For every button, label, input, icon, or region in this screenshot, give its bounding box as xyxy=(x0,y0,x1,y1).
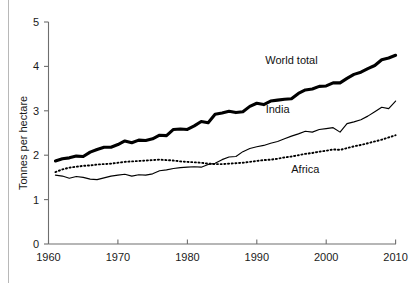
y-tick-label-3: 3 xyxy=(33,105,39,117)
y-tick-label-4: 4 xyxy=(33,60,39,72)
line-chart: 0 1 2 3 4 5 1960 1970 1980 1990 2000 201… xyxy=(0,0,418,283)
x-tick-label-2010: 2010 xyxy=(383,251,407,263)
x-tick-label-1990: 1990 xyxy=(245,251,269,263)
x-tick-label-2000: 2000 xyxy=(314,251,338,263)
y-tick-label-2: 2 xyxy=(33,149,39,161)
x-tick-label-1970: 1970 xyxy=(106,251,130,263)
series-line-world-total xyxy=(55,55,395,161)
x-tick-label-1960: 1960 xyxy=(36,251,60,263)
series-label-india: India xyxy=(266,103,291,115)
y-tick-marks xyxy=(44,22,49,244)
y-axis-title: Tonnes per hectare xyxy=(17,96,29,190)
y-tick-label-5: 5 xyxy=(33,16,39,28)
series-line-africa xyxy=(55,135,395,172)
series-label-africa: Africa xyxy=(291,163,320,175)
x-tick-marks xyxy=(49,240,396,245)
chart-figure: 0 1 2 3 4 5 1960 1970 1980 1990 2000 201… xyxy=(0,0,418,283)
series-label-world-total: World total xyxy=(265,54,317,66)
x-tick-label-1980: 1980 xyxy=(175,251,199,263)
y-tick-label-0: 0 xyxy=(33,238,39,250)
y-tick-label-1: 1 xyxy=(33,194,39,206)
